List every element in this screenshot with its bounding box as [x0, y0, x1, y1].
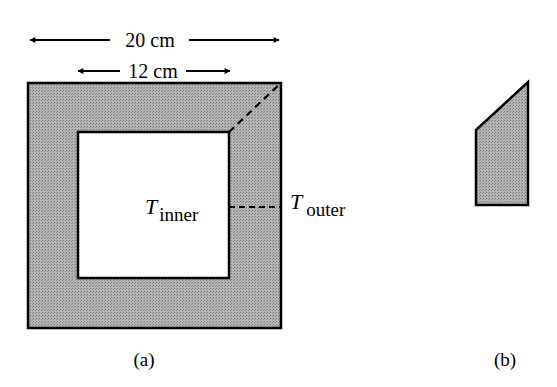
panel-a: 20 cm 12 cm Tinner Touter (a)	[28, 29, 346, 371]
dimension-outer: 20 cm	[30, 29, 279, 51]
panel-b: (b)	[476, 82, 528, 371]
diagram: 20 cm 12 cm Tinner Touter (a) (b)	[0, 0, 557, 387]
dimension-inner-label: 12 cm	[128, 60, 178, 82]
t-outer-symbol: T	[290, 189, 304, 214]
t-inner-label: Tinner	[145, 194, 199, 225]
t-inner-subscript: inner	[159, 204, 199, 225]
t-inner-symbol: T	[145, 194, 159, 219]
t-outer-subscript: outer	[306, 199, 346, 220]
dimension-outer-label: 20 cm	[125, 29, 175, 51]
symmetry-section-shape	[476, 82, 528, 205]
dimension-inner: 12 cm	[78, 60, 230, 82]
caption-a: (a)	[133, 349, 154, 371]
caption-b: (b)	[494, 349, 516, 371]
t-outer-label: Touter	[290, 189, 346, 220]
